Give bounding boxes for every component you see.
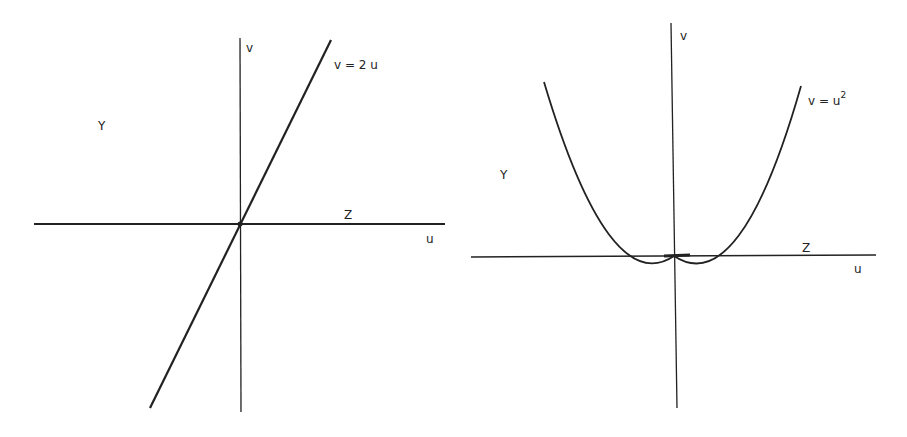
right-domain-label: Y	[499, 168, 508, 182]
left-origin-dot	[238, 222, 243, 227]
quadratic-figure: v u v = u2 Y Z	[471, 23, 876, 408]
right-curve-label-exp: 2	[840, 90, 846, 100]
right-u-axis-label: u	[854, 262, 862, 276]
right-curve-label: v = u2	[808, 90, 846, 108]
left-codomain-label: Z	[344, 208, 352, 222]
quadratic-vertex-thick	[664, 255, 690, 256]
linear-figure: v u v = 2 u Y Z	[34, 38, 445, 412]
right-codomain-label: Z	[802, 241, 810, 255]
right-curve-label-base: v = u	[808, 94, 840, 108]
left-domain-label: Y	[97, 119, 106, 133]
diagram-canvas: v u v = 2 u Y Z v u v = u2 Y Z	[0, 0, 907, 437]
left-curve-label: v = 2 u	[334, 58, 378, 72]
left-u-axis-label: u	[426, 232, 434, 246]
right-vertical-axis	[671, 23, 677, 408]
left-v-axis-label: v	[246, 41, 253, 55]
right-v-axis-label: v	[680, 29, 687, 43]
